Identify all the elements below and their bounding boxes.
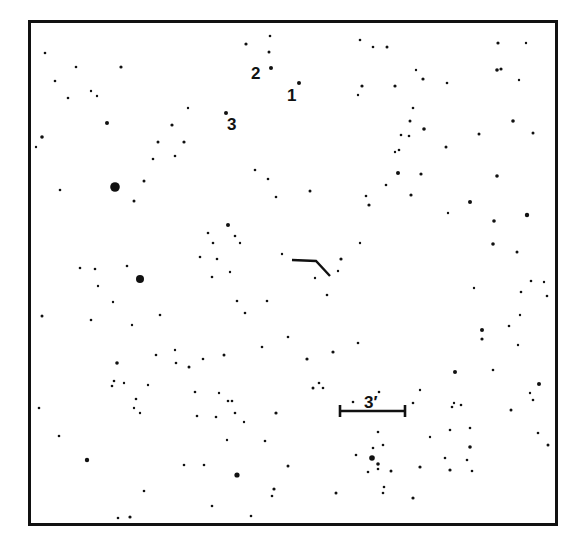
star (267, 178, 270, 181)
star (365, 195, 368, 198)
star (448, 468, 451, 471)
star (133, 200, 136, 203)
star (520, 291, 523, 294)
star (359, 39, 362, 42)
star (495, 174, 499, 178)
star (202, 358, 205, 361)
star (400, 134, 403, 137)
star (250, 515, 253, 518)
star (480, 337, 483, 340)
star (377, 468, 380, 471)
star (429, 436, 431, 438)
star (119, 65, 122, 68)
star-label-3: 3 (227, 116, 236, 133)
target-marker-icon (292, 260, 330, 276)
star (367, 203, 370, 206)
star (75, 66, 78, 69)
star-label-2: 2 (251, 65, 260, 82)
star (287, 465, 290, 468)
star (376, 462, 380, 466)
star (532, 399, 535, 402)
star (196, 415, 199, 418)
star (272, 487, 275, 490)
star (492, 219, 496, 223)
star (339, 257, 342, 260)
star (67, 97, 70, 100)
star (159, 314, 162, 317)
star (357, 342, 360, 345)
star (525, 42, 527, 44)
star (54, 80, 57, 83)
star (143, 180, 146, 183)
star (530, 280, 533, 283)
star (239, 242, 241, 244)
star (478, 133, 481, 136)
star (385, 184, 388, 187)
star (96, 95, 98, 97)
star (234, 235, 237, 238)
star (453, 370, 457, 374)
star (223, 354, 226, 357)
star (212, 242, 215, 245)
star (495, 68, 499, 72)
star (360, 84, 363, 87)
star (243, 421, 245, 423)
star (460, 404, 463, 407)
star (128, 515, 131, 518)
star (532, 132, 535, 135)
star (227, 400, 230, 403)
star (499, 67, 502, 70)
star (261, 346, 264, 349)
star (203, 464, 206, 467)
star (123, 382, 125, 384)
star (182, 140, 185, 143)
star (215, 416, 218, 419)
star (155, 354, 158, 357)
star (111, 385, 114, 388)
star (369, 455, 375, 461)
star (511, 119, 515, 123)
star (112, 301, 114, 303)
star (264, 440, 267, 443)
star (421, 77, 424, 80)
star (254, 169, 257, 172)
star (269, 35, 272, 38)
star (331, 350, 334, 353)
star (143, 490, 146, 493)
star (396, 171, 400, 175)
star (314, 277, 316, 279)
star (367, 471, 370, 474)
star (229, 271, 231, 273)
star (355, 454, 358, 457)
star (90, 90, 92, 92)
star (59, 189, 62, 192)
star (133, 407, 135, 409)
star (480, 328, 484, 332)
star (382, 492, 385, 495)
star (469, 427, 472, 430)
star (377, 431, 380, 434)
star (412, 402, 415, 405)
star (492, 369, 495, 372)
star (139, 412, 141, 414)
star (194, 391, 197, 394)
star (231, 400, 234, 403)
star (519, 314, 521, 316)
star (322, 387, 325, 390)
star (359, 242, 361, 244)
star (412, 107, 415, 110)
star (318, 382, 321, 385)
star (372, 447, 375, 450)
star (312, 387, 315, 390)
star (496, 41, 499, 44)
star (234, 472, 239, 477)
star (352, 401, 355, 404)
star (305, 357, 308, 360)
star-label-1: 1 (287, 87, 296, 104)
star (58, 435, 61, 438)
star (275, 196, 278, 199)
star (529, 392, 531, 394)
star (382, 444, 385, 447)
star (126, 265, 129, 268)
star (199, 256, 202, 259)
